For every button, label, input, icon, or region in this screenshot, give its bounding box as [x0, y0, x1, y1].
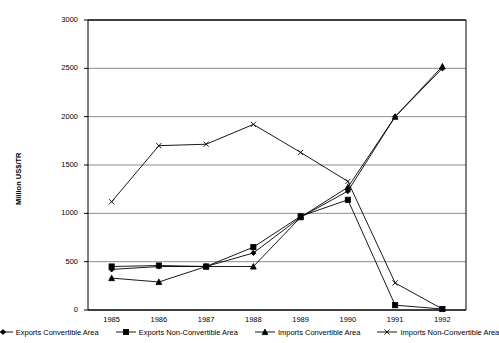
data-point-marker-square — [123, 329, 128, 334]
legend-item-cross[interactable]: Imports Non-Convertible Area — [377, 327, 499, 337]
data-point-marker-square — [109, 264, 114, 269]
data-point-marker-cross — [109, 199, 114, 204]
data-point-marker-square — [393, 303, 398, 308]
legend-marker-triangle-icon — [255, 327, 275, 337]
data-point-marker-triangle — [439, 63, 445, 69]
data-point-marker-cross — [298, 150, 303, 155]
legend-item-diamond[interactable]: Exports Convertible Area — [0, 327, 99, 337]
data-point-marker-square — [251, 245, 256, 250]
legend-marker-cross-icon — [377, 327, 397, 337]
legend-marker-square-icon — [116, 327, 136, 337]
data-point-marker-diamond — [0, 329, 5, 334]
data-point-marker-cross — [251, 122, 256, 127]
chart-legend: Exports Convertible AreaExports Non-Conv… — [0, 324, 492, 340]
legend-label: Imports Convertible Area — [278, 328, 361, 337]
legend-label: Imports Non-Convertible Area — [400, 328, 499, 337]
series-line-square — [112, 200, 443, 309]
legend-marker-diamond-icon — [0, 327, 13, 337]
legend-label: Exports Non-Convertible Area — [139, 328, 238, 337]
data-point-marker-square — [156, 263, 161, 268]
legend-item-triangle[interactable]: Imports Convertible Area — [255, 327, 361, 337]
series-line-triangle — [112, 66, 443, 282]
legend-item-square[interactable]: Exports Non-Convertible Area — [116, 327, 238, 337]
legend-label: Exports Convertible Area — [16, 328, 99, 337]
series-line-diamond — [112, 68, 443, 269]
data-point-marker-cross — [393, 280, 398, 285]
data-point-marker-square — [345, 197, 350, 202]
data-point-marker-cross — [345, 179, 350, 184]
